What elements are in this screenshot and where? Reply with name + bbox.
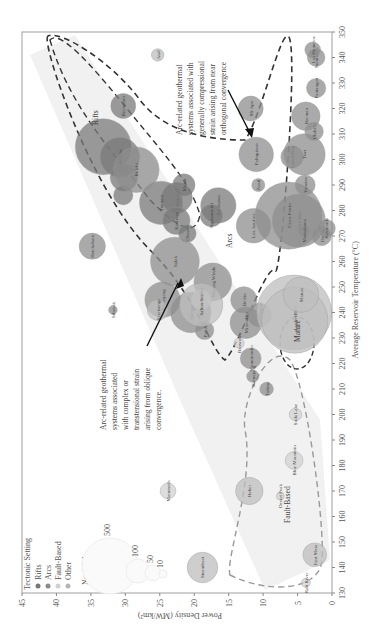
legend-title: Tectonic Setting <box>23 538 32 590</box>
svg-text:200: 200 <box>338 409 347 421</box>
svg-text:150: 150 <box>338 536 347 548</box>
svg-text:Miravalles: Miravalles <box>244 312 249 333</box>
svg-text:Bacman: Bacman <box>304 107 309 124</box>
svg-text:Hatchobaru: Hatchobaru <box>90 234 95 258</box>
svg-text:strain arising from near: strain arising from near <box>208 63 217 135</box>
svg-text:Cerro Prieto: Cerro Prieto <box>287 203 292 228</box>
svg-text:Pantangan: Pantangan <box>314 77 319 98</box>
svg-text:25: 25 <box>156 599 165 607</box>
svg-text:Salak: Salak <box>173 255 178 267</box>
svg-text:Los Humeros: Los Humeros <box>311 36 316 63</box>
svg-text:10: 10 <box>156 560 165 568</box>
bubble-rifts: Mokai <box>173 174 195 196</box>
svg-text:Rifts: Rifts <box>91 110 100 125</box>
bubble-other: Asal <box>151 49 164 62</box>
bubble-other: Salton Sea <box>179 283 222 326</box>
legend-item: Fault-Based <box>54 541 63 580</box>
svg-text:Svartsengi: Svartsengi <box>156 299 161 321</box>
svg-text:220: 220 <box>338 358 347 370</box>
svg-text:270: 270 <box>338 230 347 242</box>
bubble-fault-based: Mammoth <box>160 480 176 501</box>
svg-text:40: 40 <box>52 599 61 607</box>
bubble-arcs: Tiwi <box>284 134 325 175</box>
svg-text:Ohaaki: Ohaaki <box>185 226 190 241</box>
svg-text:290: 290 <box>338 179 347 191</box>
x-axis-title: Average Reservoir Temperature (°C) <box>351 241 360 359</box>
svg-text:Soda Lake: Soda Lake <box>293 403 298 425</box>
bubble-arcs: Bacman <box>292 102 321 131</box>
svg-text:Zunil: Zunil <box>256 179 261 190</box>
svg-text:Berlin: Berlin <box>242 293 247 306</box>
svg-text:280: 280 <box>338 205 347 217</box>
svg-text:Arc-related geothermal: Arc-related geothermal <box>175 64 184 135</box>
svg-text:Steamboat: Steamboat <box>200 556 205 578</box>
svg-text:100: 100 <box>131 545 140 557</box>
svg-text:generally compressional: generally compressional <box>197 61 206 135</box>
bubble-other: East Mesa <box>303 543 327 567</box>
svg-text:45: 45 <box>18 599 27 607</box>
svg-text:Beowawe: Beowawe <box>237 332 242 352</box>
svg-text:Bulalo: Bulalo <box>134 163 139 177</box>
svg-text:180: 180 <box>338 460 347 472</box>
svg-text:Fault-Based: Fault-Based <box>283 486 292 523</box>
svg-text:10: 10 <box>259 599 268 607</box>
svg-text:260: 260 <box>338 256 347 268</box>
svg-text:5: 5 <box>294 601 303 605</box>
svg-text:orthogonal convergence: orthogonal convergence <box>219 61 228 135</box>
bubble-arcs: Yanaizu <box>295 175 315 195</box>
svg-text:Heber: Heber <box>247 485 252 498</box>
bubble-arcs: Sibayak <box>109 301 118 318</box>
legend-item: Rifts <box>34 564 43 580</box>
svg-text:Matsukawa: Matsukawa <box>302 219 307 243</box>
svg-text:Tolima: Tolima <box>265 381 270 396</box>
legend-item: Other <box>64 561 73 580</box>
bubble-arcs: Salak <box>151 237 200 286</box>
svg-text:20: 20 <box>190 599 199 607</box>
svg-text:350: 350 <box>338 26 347 38</box>
bubble-chart: ReykjanesHell.SnWairakeiTauharaMokaiKawe… <box>0 0 377 641</box>
svg-text:Kamojang: Kamojang <box>251 365 256 386</box>
svg-text:340: 340 <box>338 52 347 64</box>
svg-text:Mammoth: Mammoth <box>166 480 171 501</box>
bubble-arcs: Bulalo <box>114 147 159 192</box>
svg-text:Reykjanes: Reykjanes <box>121 95 126 116</box>
svg-text:35: 35 <box>87 599 96 607</box>
svg-text:convergence.: convergence. <box>154 390 163 430</box>
svg-text:Tiwi: Tiwi <box>302 149 307 159</box>
svg-text:East Mesa: East Mesa <box>313 544 318 565</box>
svg-text:transtensional strain: transtensional strain <box>132 369 141 430</box>
svg-text:Kawerau: Kawerau <box>174 211 179 230</box>
svg-text:arising from oblique: arising from oblique <box>143 367 152 430</box>
svg-text:230: 230 <box>338 332 347 344</box>
bubble-other: Mature <box>283 277 318 312</box>
svg-text:15: 15 <box>225 599 234 607</box>
y-axis-title: Power Density (MW/km²) <box>138 611 223 620</box>
bubble-arcs: Zunil <box>252 178 265 191</box>
svg-text:240: 240 <box>338 307 347 319</box>
svg-text:Tauhara: Tauhara <box>159 194 164 211</box>
legend: Tectonic SettingRiftsArcsFault-BasedOthe… <box>23 524 167 594</box>
legend-item: Arcs <box>44 565 53 580</box>
bubble-arcs: Palinpinon <box>239 137 273 171</box>
bubble-arcs: Pantangan <box>306 77 325 98</box>
svg-text:Palinpinon: Palinpinon <box>254 143 259 165</box>
svg-text:Salton Sea: Salton Sea <box>199 293 204 315</box>
svg-text:Raft River: Raft River <box>304 572 309 593</box>
svg-text:Mature: Mature <box>293 319 302 342</box>
svg-text:systems associated with: systems associated with <box>186 62 195 135</box>
svg-text:with complex or: with complex or <box>121 380 130 430</box>
svg-text:Blue Mountain: Blue Mountain <box>292 445 297 476</box>
svg-text:190: 190 <box>338 434 347 446</box>
svg-text:Mokai: Mokai <box>182 178 187 192</box>
svg-text:Kakkonda: Kakkonda <box>324 217 329 238</box>
svg-text:330: 330 <box>338 77 347 89</box>
svg-text:Sibayak: Sibayak <box>111 301 116 318</box>
svg-text:Ngatamariki: Ngatamariki <box>209 202 214 228</box>
svg-text:300: 300 <box>338 154 347 166</box>
svg-text:Mt Apo: Mt Apo <box>249 100 254 116</box>
svg-text:140: 140 <box>338 562 347 574</box>
svg-text:Arc-related geothermal: Arc-related geothermal <box>99 359 108 430</box>
svg-text:210: 210 <box>338 383 347 395</box>
bubble-rifts: Reykjanes <box>111 93 136 118</box>
svg-text:160: 160 <box>338 511 347 523</box>
